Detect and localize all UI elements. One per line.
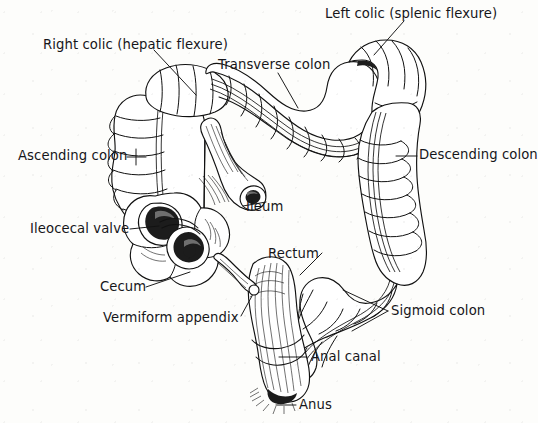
label-ascending-colon: Ascending colon: [18, 149, 127, 162]
label-right-colic: Right colic (hepatic flexure): [43, 38, 228, 51]
label-ileum: Ileum: [246, 200, 283, 213]
label-ileocecal-valve: Ileocecal valve: [30, 222, 129, 235]
label-descending-colon: Descending colon: [419, 148, 538, 161]
label-anal-canal: Anal canal: [311, 350, 381, 363]
label-cecum: Cecum: [100, 280, 146, 293]
label-sigmoid-colon: Sigmoid colon: [391, 304, 485, 317]
descending-colon-shape: [358, 103, 427, 286]
label-anus: Anus: [299, 398, 332, 411]
label-vermiform-appendix: Vermiform appendix: [103, 311, 239, 324]
label-rectum: Rectum: [268, 247, 319, 260]
label-left-colic: Left colic (splenic flexure): [325, 7, 497, 20]
label-transverse-colon: Transverse colon: [218, 58, 330, 71]
rectum-shape: [248, 257, 309, 414]
